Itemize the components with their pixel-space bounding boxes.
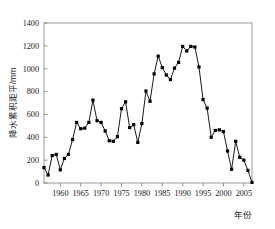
y-tick-label: 400 <box>27 133 39 142</box>
data-point-marker <box>177 61 180 64</box>
data-point-marker <box>157 55 160 58</box>
chart-canvas: 0200400600800100012001400 19601965197019… <box>0 0 275 229</box>
data-point-marker <box>226 149 229 152</box>
data-point-marker <box>104 129 107 132</box>
data-point-marker <box>234 140 237 143</box>
data-point-marker <box>120 107 123 110</box>
x-tick-label: 1960 <box>52 189 68 198</box>
data-point-marker <box>83 127 86 130</box>
data-point-marker <box>230 168 233 171</box>
x-tick-label: 1985 <box>154 189 170 198</box>
data-point-marker <box>108 139 111 142</box>
data-point-marker <box>238 156 241 159</box>
data-point-marker <box>63 157 66 160</box>
precipitation-cumulative-anomaly-chart: 0200400600800100012001400 19601965197019… <box>0 0 275 229</box>
data-point-marker <box>67 153 70 156</box>
data-point-marker <box>79 127 82 130</box>
data-point-marker <box>201 98 204 101</box>
data-point-marker <box>51 154 54 157</box>
data-point-marker <box>165 73 168 76</box>
data-point-marker <box>95 119 98 122</box>
y-tick-label: 1200 <box>23 42 39 51</box>
y-tick-label: 0 <box>35 179 39 188</box>
y-tick-label: 800 <box>27 87 39 96</box>
data-point-marker <box>91 99 94 102</box>
y-tick-label: 1400 <box>23 19 39 28</box>
data-point-marker <box>153 72 156 75</box>
x-tick-label: 1965 <box>73 189 89 198</box>
data-point-marker <box>46 173 49 176</box>
data-point-marker <box>189 45 192 48</box>
x-axis-title: 年份 <box>234 210 252 220</box>
data-point-marker <box>71 138 74 141</box>
data-point-marker <box>185 49 188 52</box>
y-axis-title: 降水累积距平/mm <box>8 68 18 139</box>
data-point-marker <box>246 169 249 172</box>
data-point-marker <box>161 66 164 69</box>
data-point-marker <box>242 159 245 162</box>
y-tick-label: 600 <box>27 110 39 119</box>
data-point-marker <box>148 100 151 103</box>
data-point-marker <box>140 122 143 125</box>
x-tick-label: 1970 <box>93 189 109 198</box>
data-point-marker <box>173 67 176 70</box>
data-point-marker <box>132 123 135 126</box>
data-point-marker <box>197 65 200 68</box>
data-point-marker <box>222 130 225 133</box>
data-point-marker <box>144 89 147 92</box>
x-tick-label: 2000 <box>215 189 231 198</box>
data-point-marker <box>206 107 209 110</box>
data-point-marker <box>59 168 62 171</box>
data-point-marker <box>75 121 78 124</box>
data-point-marker <box>136 141 139 144</box>
data-point-marker <box>42 166 45 169</box>
x-tick-label: 1990 <box>174 189 190 198</box>
data-point-marker <box>210 136 213 139</box>
data-point-marker <box>250 181 253 184</box>
x-tick-label: 1995 <box>195 189 211 198</box>
x-tick-label: 2005 <box>236 189 252 198</box>
y-tick-label: 1000 <box>23 65 39 74</box>
data-point-marker <box>55 153 58 156</box>
x-tick-label: 1980 <box>134 189 150 198</box>
y-tick-label: 200 <box>27 156 39 165</box>
data-point-marker <box>124 100 127 103</box>
data-point-marker <box>100 121 103 124</box>
data-point-marker <box>112 140 115 143</box>
data-point-marker <box>116 135 119 138</box>
data-point-marker <box>214 129 217 132</box>
data-point-marker <box>128 126 131 129</box>
data-point-marker <box>218 128 221 131</box>
x-tick-label: 1975 <box>113 189 129 198</box>
data-point-marker <box>169 78 172 81</box>
data-point-marker <box>87 121 90 124</box>
data-point-marker <box>181 45 184 48</box>
data-point-marker <box>193 45 196 48</box>
